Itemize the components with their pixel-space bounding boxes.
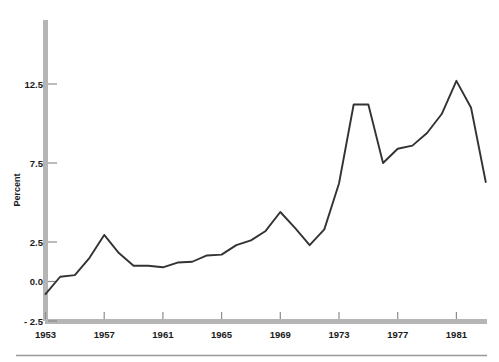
data-series-line [46, 81, 486, 294]
x-tick-label-1981: 1981 [446, 329, 468, 340]
x-tick-label-1969: 1969 [270, 329, 291, 340]
line-chart: 12.5 7.5 2.5 0.0 - 2.5 1953 1957 1961 19… [0, 0, 499, 362]
y-tick-label-7-5: 7.5 [30, 158, 44, 169]
x-tick-label-1973: 1973 [328, 329, 349, 340]
x-tick-label-1977: 1977 [387, 329, 408, 340]
y-axis-title: Percent [12, 173, 22, 206]
x-tick-label-1961: 1961 [152, 329, 174, 340]
x-tick-marks [46, 312, 457, 319]
x-tick-label-1965: 1965 [211, 329, 233, 340]
x-tick-label-1953: 1953 [35, 329, 56, 340]
x-tick-label-1957: 1957 [94, 329, 115, 340]
chart-figure: 12.5 7.5 2.5 0.0 - 2.5 1953 1957 1961 19… [0, 0, 499, 362]
y-tick-label-0-0: 0.0 [30, 276, 43, 287]
y-tick-label-2-5: 2.5 [30, 237, 44, 248]
y-tick-label-12-5: 12.5 [25, 79, 44, 90]
y-tick-label-neg-2-5: - 2.5 [24, 316, 44, 327]
